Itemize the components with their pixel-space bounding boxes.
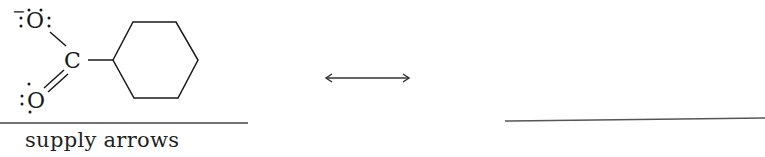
single-bond-o-c [50, 32, 66, 46]
top-oxygen: O − [12, 2, 51, 33]
resonance-double-headed-arrow-icon [326, 74, 409, 82]
negative-charge: − [12, 2, 25, 21]
cyclohexane-ring [113, 22, 198, 98]
bottom-oxygen: O [21, 83, 46, 114]
answer-blank-line[interactable] [505, 118, 765, 121]
carbon-label: C [64, 48, 81, 73]
caption-supply-arrows: supply arrows [25, 128, 179, 152]
double-bond-c-o [44, 70, 68, 92]
top-oxygen-label: O [26, 8, 44, 33]
resonance-diagram: O − C O [0, 0, 765, 157]
carboxylate-structure: O − C O [12, 2, 198, 114]
bottom-oxygen-label: O [27, 88, 45, 113]
